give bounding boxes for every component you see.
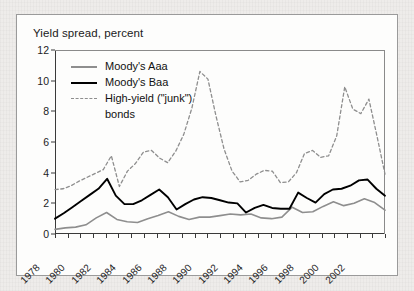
x-axis-tick-label: 1994 <box>221 262 245 286</box>
x-axis-tick-mark <box>131 234 132 238</box>
chart-title: Yield spread, percent <box>33 27 143 39</box>
x-axis-tick-mark <box>372 234 373 238</box>
x-axis-tick-label: 1978 <box>18 262 42 286</box>
y-axis-tick-label: 4 <box>43 167 49 179</box>
x-axis-tick-mark <box>68 234 69 238</box>
legend-label-aaa: Moody's Aaa <box>105 59 168 74</box>
x-axis-tick-mark <box>334 234 335 238</box>
series-line <box>55 179 385 219</box>
x-axis-tick-mark <box>347 234 348 238</box>
legend-item-junk: High-yield ("junk") <box>71 91 192 107</box>
chart-panel: Yield spread, percent 024681012 19781980… <box>16 14 398 276</box>
x-axis-tick-mark <box>322 234 323 238</box>
x-axis-tick-mark <box>195 234 196 238</box>
y-axis-tick-label: 12 <box>37 44 49 56</box>
y-axis-tick-label: 0 <box>43 228 49 240</box>
x-axis-tick-label: 1990 <box>171 262 195 286</box>
x-axis-tick-label: 1996 <box>247 262 271 286</box>
y-axis-tick-label: 10 <box>37 75 49 87</box>
y-axis-tick-mark <box>51 80 55 81</box>
x-axis-tick-mark <box>80 234 81 238</box>
y-axis-tick-mark <box>51 203 55 204</box>
x-axis-tick-mark <box>93 234 94 238</box>
x-axis-tick-mark <box>207 234 208 238</box>
x-axis-tick-label: 2000 <box>297 262 321 286</box>
legend-item-baa: Moody's Baa <box>71 75 192 91</box>
y-axis-tick-mark <box>51 172 55 173</box>
x-axis-tick-mark <box>144 234 145 238</box>
figure-container: Yield spread, percent 024681012 19781980… <box>0 0 414 291</box>
x-axis-tick-mark <box>271 234 272 238</box>
x-axis-tick-label: 1980 <box>44 262 68 286</box>
x-axis-tick-mark <box>385 234 386 238</box>
y-axis-tick-mark <box>51 111 55 112</box>
x-axis-tick-label: 1986 <box>120 262 144 286</box>
legend-label-junk-line2: bonds <box>105 107 192 122</box>
series-line <box>55 199 385 230</box>
x-axis-tick-mark <box>220 234 221 238</box>
legend-item-aaa: Moody's Aaa <box>71 59 192 75</box>
x-axis-tick-mark <box>245 234 246 238</box>
chart-legend: Moody's Aaa Moody's Baa High-yield ("jun… <box>71 59 192 122</box>
x-axis-tick-label: 2002 <box>323 262 347 286</box>
x-axis-tick-mark <box>182 234 183 238</box>
x-axis-tick-label: 1984 <box>94 262 118 286</box>
x-axis-tick-mark <box>55 234 56 238</box>
legend-label-baa: Moody's Baa <box>105 75 168 90</box>
x-axis-tick-mark <box>360 234 361 238</box>
y-axis-tick-mark <box>51 50 55 51</box>
legend-label-junk: High-yield ("junk") <box>105 91 192 106</box>
line-swatch-icon-baa <box>71 75 97 91</box>
x-axis-tick-mark <box>233 234 234 238</box>
plot-area: 024681012 197819801982198419861988199019… <box>55 50 385 234</box>
y-axis-tick-label: 8 <box>43 105 49 117</box>
x-axis-tick-mark <box>296 234 297 238</box>
dashed-line-swatch-icon-junk <box>71 91 97 107</box>
y-axis-tick-label: 6 <box>43 136 49 148</box>
x-axis-tick-label: 1998 <box>272 262 296 286</box>
line-swatch-icon-aaa <box>71 59 97 75</box>
x-axis-tick-mark <box>258 234 259 238</box>
x-axis-tick-mark <box>309 234 310 238</box>
x-axis-tick-mark <box>169 234 170 238</box>
x-axis-tick-label: 1992 <box>196 262 220 286</box>
y-axis-tick-mark <box>51 142 55 143</box>
x-axis-tick-mark <box>157 234 158 238</box>
x-axis-tick-label: 1982 <box>69 262 93 286</box>
x-axis-tick-mark <box>283 234 284 238</box>
y-axis-tick-label: 2 <box>43 197 49 209</box>
x-axis-tick-mark <box>106 234 107 238</box>
x-axis-tick-label: 1988 <box>145 262 169 286</box>
x-axis-tick-mark <box>118 234 119 238</box>
